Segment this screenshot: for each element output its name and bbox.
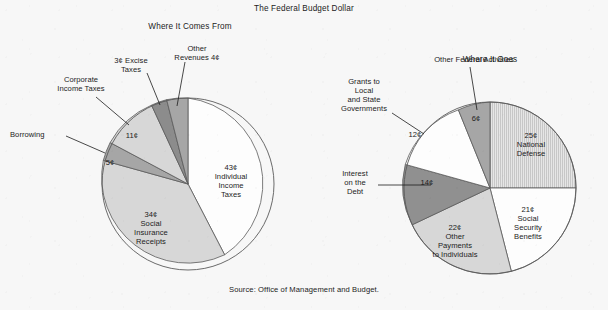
left-chart-title: Where It Comes From <box>90 22 290 32</box>
label-interest-on-the-debt-value: 14¢ <box>412 179 442 188</box>
label-corporate-income-taxes-value: 11¢ <box>117 132 147 141</box>
label-interest-on-the-debt: Interest on the Debt <box>330 170 380 197</box>
label-borrowing: Borrowing <box>10 131 78 140</box>
leader-excise-taxes <box>147 73 160 105</box>
label-borrowing-value: 5¢ <box>95 159 125 168</box>
leader-corporate <box>96 97 129 125</box>
label-other-federal-activities-value: 6¢ <box>462 115 490 124</box>
label-grants-to-local-and-state-governments: Grants to Local and State Governments <box>320 78 408 114</box>
page-title: The Federal Budget Dollar <box>0 4 608 14</box>
label-social-insurance-receipts: 34¢ Social Insurance Receipts <box>113 211 189 247</box>
label-individual-income-taxes: 43¢ Individual Income Taxes <box>199 164 263 200</box>
label-other-revenues: Other Revenues 4¢ <box>160 45 234 63</box>
label-grants-value: 12¢ <box>400 131 430 140</box>
label-other-payments-to-individuals: 22¢ Other Payments to Individuals <box>415 224 495 260</box>
label-national-defense: 25¢ National Defense <box>500 132 562 159</box>
figure-canvas: The Federal Budget Dollar Where It Comes… <box>0 0 608 310</box>
label-excise-taxes: 3¢ Excise Taxes <box>100 57 162 75</box>
label-other-federal-activities: Other Federal Activities <box>409 56 539 65</box>
label-social-security-benefits: 21¢ Social Security Benefits <box>496 206 560 242</box>
label-corporate-income-taxes: Corporate Income Taxes <box>38 76 124 94</box>
source-note: Source: Office of Management and Budget. <box>0 286 608 295</box>
